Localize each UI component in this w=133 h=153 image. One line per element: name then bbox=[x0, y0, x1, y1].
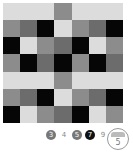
grid-cell-6-0[interactable] bbox=[3, 106, 20, 123]
dial-value: 5 bbox=[108, 138, 128, 147]
grid-cell-1-0[interactable] bbox=[3, 20, 20, 37]
size-option-4[interactable]: 4 bbox=[59, 130, 69, 140]
size-option-5[interactable]: 5 bbox=[72, 130, 82, 140]
grid-cell-6-5[interactable] bbox=[89, 106, 106, 123]
grid-cell-3-5[interactable] bbox=[89, 54, 106, 71]
grid-cell-1-6[interactable] bbox=[106, 20, 123, 37]
grid-cell-6-2[interactable] bbox=[37, 106, 54, 123]
grid-cell-0-6[interactable] bbox=[106, 3, 123, 20]
grid-cell-4-4[interactable] bbox=[72, 72, 89, 89]
grid-cell-4-6[interactable] bbox=[106, 72, 123, 89]
level-dial[interactable]: 5 bbox=[107, 128, 129, 150]
grid-cell-6-3[interactable] bbox=[54, 106, 71, 123]
grid-cell-5-1[interactable] bbox=[20, 89, 37, 106]
grid-cell-2-2[interactable] bbox=[37, 37, 54, 54]
grid-cell-3-2[interactable] bbox=[37, 54, 54, 71]
grid-cell-5-5[interactable] bbox=[89, 89, 106, 106]
grid-cell-0-2[interactable] bbox=[37, 3, 54, 20]
grid-cell-2-4[interactable] bbox=[72, 37, 89, 54]
grid-cell-0-5[interactable] bbox=[89, 3, 106, 20]
grid-cell-5-6[interactable] bbox=[106, 89, 123, 106]
grid-cell-1-5[interactable] bbox=[89, 20, 106, 37]
grid-cell-1-4[interactable] bbox=[72, 20, 89, 37]
grid-cell-4-1[interactable] bbox=[20, 72, 37, 89]
grid-cell-0-4[interactable] bbox=[72, 3, 89, 20]
grid-cell-1-3[interactable] bbox=[54, 20, 71, 37]
grid-cell-4-5[interactable] bbox=[89, 72, 106, 89]
grid-cell-2-1[interactable] bbox=[20, 37, 37, 54]
grid-cell-1-2[interactable] bbox=[37, 20, 54, 37]
grid-cell-6-6[interactable] bbox=[106, 106, 123, 123]
size-option-7[interactable]: 7 bbox=[85, 130, 95, 140]
grid-cell-3-6[interactable] bbox=[106, 54, 123, 71]
grid-cell-6-1[interactable] bbox=[20, 106, 37, 123]
grid-cell-2-0[interactable] bbox=[3, 37, 20, 54]
pattern-grid bbox=[3, 3, 123, 123]
grid-cell-4-2[interactable] bbox=[37, 72, 54, 89]
grid-cell-3-3[interactable] bbox=[54, 54, 71, 71]
grid-cell-0-3[interactable] bbox=[54, 3, 71, 20]
grid-cell-2-6[interactable] bbox=[106, 37, 123, 54]
grid-cell-4-0[interactable] bbox=[3, 72, 20, 89]
grid-cell-2-3[interactable] bbox=[54, 37, 71, 54]
grid-cell-1-1[interactable] bbox=[20, 20, 37, 37]
grid-cell-5-4[interactable] bbox=[72, 89, 89, 106]
grid-cell-3-1[interactable] bbox=[20, 54, 37, 71]
grid-cell-6-4[interactable] bbox=[72, 106, 89, 123]
size-option-3[interactable]: 3 bbox=[46, 130, 56, 140]
grid-cell-3-4[interactable] bbox=[72, 54, 89, 71]
grid-cell-3-0[interactable] bbox=[3, 54, 20, 71]
grid-cell-5-0[interactable] bbox=[3, 89, 20, 106]
grid-cell-4-3[interactable] bbox=[54, 72, 71, 89]
grid-cell-5-2[interactable] bbox=[37, 89, 54, 106]
grid-cell-0-0[interactable] bbox=[3, 3, 20, 20]
grid-cell-0-1[interactable] bbox=[20, 3, 37, 20]
grid-cell-5-3[interactable] bbox=[54, 89, 71, 106]
size-selector: 3 4 5 7 9 bbox=[46, 130, 108, 140]
dial-gauge-icon bbox=[111, 132, 125, 137]
grid-cell-2-5[interactable] bbox=[89, 37, 106, 54]
